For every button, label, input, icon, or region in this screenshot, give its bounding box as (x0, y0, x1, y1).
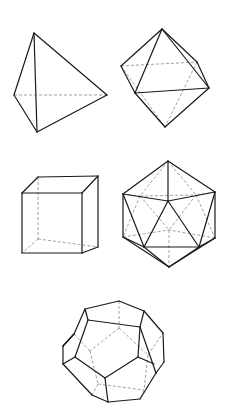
dodecahedron-edge (63, 357, 75, 364)
cube-edge (82, 247, 98, 253)
octahedron-edge (121, 29, 162, 66)
tetrahedron-edge (34, 33, 37, 132)
dodecahedron-edge (63, 334, 74, 346)
dodecahedron-edge (75, 357, 105, 378)
dodecahedron-edge (144, 311, 163, 333)
dodecahedron-edge (119, 301, 144, 311)
dodecahedron-edge (105, 378, 108, 402)
octahedron-edge (165, 88, 209, 127)
icosahedron-hidden-edge (123, 230, 169, 237)
cube-drawing (22, 176, 98, 253)
icosahedron-edge (168, 192, 215, 201)
dodecahedron-edge (156, 362, 164, 373)
dodecahedron-hidden-edge (90, 328, 119, 351)
octahedron-hidden-edge (165, 62, 197, 127)
icosahedron-edge (144, 247, 169, 267)
dodecahedron-hidden-edge (90, 351, 98, 384)
dodecahedron-edge (85, 301, 119, 309)
tetrahedron-edge (14, 33, 34, 95)
dodecahedron-edge (63, 364, 92, 395)
octahedron-drawing (121, 29, 209, 127)
icosahedron-edge (168, 161, 215, 192)
cube-edge (22, 177, 38, 193)
dodecahedron-edge (88, 320, 140, 327)
dodecahedron-edge (92, 395, 108, 402)
dodecahedron-edge (140, 373, 156, 399)
tetrahedron-drawing (14, 33, 107, 132)
dodecahedron-edge (105, 357, 138, 378)
dodecahedron-edge (163, 333, 164, 362)
icosahedron-edge (123, 194, 168, 201)
tetrahedron-edge (34, 33, 107, 95)
icosahedron-hidden-edge (140, 196, 169, 230)
dodecahedron-edge (75, 320, 88, 357)
octahedron-edge (121, 66, 135, 93)
icosahedron-edge (168, 201, 199, 247)
cube-hidden-edge (38, 239, 98, 247)
octahedron-edge (162, 29, 197, 62)
icosahedron-edge (123, 237, 169, 267)
dodecahedron-edge (140, 311, 144, 327)
icosahedron-edge (169, 238, 215, 267)
dodecahedron-edge (138, 327, 140, 357)
cube-edge (82, 176, 98, 193)
dodecahedron-hidden-edge (98, 384, 144, 390)
dodecahedron-edge (85, 309, 88, 320)
dodecahedron-hidden-edge (92, 384, 98, 395)
dodecahedron-hidden-edge (148, 333, 163, 355)
tetrahedron-edge (37, 95, 107, 132)
octahedron-edge (162, 29, 209, 88)
platonic-solids-figure (0, 0, 230, 420)
dodecahedron-hidden-edge (119, 328, 148, 355)
icosahedron-hidden-edge (168, 161, 196, 195)
tetrahedron-edge (14, 95, 37, 132)
cube-hidden-edge (22, 239, 38, 253)
dodecahedron-edge (108, 399, 140, 402)
dodecahedron-drawing (63, 301, 164, 402)
octahedron-edge (135, 93, 165, 127)
icosahedron-drawing (123, 161, 215, 267)
octahedron-edge (135, 29, 162, 93)
dodecahedron-edge (74, 309, 85, 334)
octahedron-hidden-edge (121, 62, 197, 66)
cube-edge (38, 176, 98, 177)
octahedron-edge (135, 88, 209, 93)
